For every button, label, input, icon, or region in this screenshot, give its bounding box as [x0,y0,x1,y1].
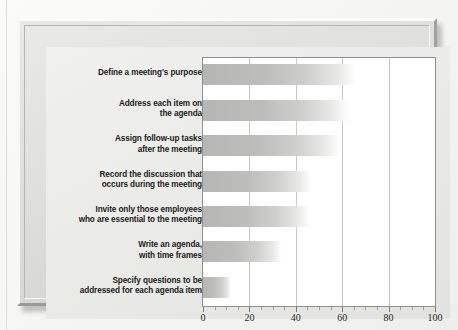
category-label: Invite only those employees who are esse… [46,205,202,226]
x-tick-minor [238,307,239,310]
x-axis-labels: 020406080100 [202,312,436,328]
category-label: Address each item on the agenda [46,99,202,120]
x-tick-label: 80 [384,312,394,323]
x-tick-minor [354,307,355,310]
bar [203,100,349,121]
bar [203,64,356,85]
chart-panel: Define a meeting's purposeAddress each i… [46,47,450,319]
bar [203,135,340,156]
chart-frame: Define a meeting's purposeAddress each i… [17,18,437,306]
x-tick-minor [377,307,378,310]
x-tick-minor [307,307,308,310]
x-tick-minor [331,307,332,310]
page-background: Define a meeting's purposeAddress each i… [0,0,458,330]
x-tick-minor [400,307,401,310]
category-label: Assign follow-up tasks after the meeting [46,134,202,155]
x-tick-label: 100 [428,312,443,323]
gridline-80 [389,58,390,306]
x-tick-minor [273,307,274,310]
x-tick-minor [226,307,227,310]
category-axis: Define a meeting's purposeAddress each i… [46,57,202,305]
x-tick-minor [261,307,262,310]
bar [203,277,231,298]
x-tick-minor [365,307,366,310]
x-tick-minor [423,307,424,310]
left-edge-rule [6,0,7,330]
x-tick-minor [319,307,320,310]
x-tick-label: 40 [291,312,301,323]
category-label: Write an agenda, with time frames [46,240,202,261]
bar [203,171,312,192]
category-label: Specify questions to be addressed for ea… [46,276,202,297]
bar [203,206,310,227]
x-tick-minor [412,307,413,310]
x-tick-label: 60 [337,312,347,323]
x-tick-minor [215,307,216,310]
plot-area: Percentage of Respondents [202,57,436,307]
x-tick-label: 20 [244,312,254,323]
x-tick-label: 0 [201,312,206,323]
bar [203,241,282,262]
x-tick-minor [284,307,285,310]
gridline-60 [342,58,343,306]
category-label: Record the discussion that occurs during… [46,170,202,191]
category-label: Define a meeting's purpose [46,68,202,79]
